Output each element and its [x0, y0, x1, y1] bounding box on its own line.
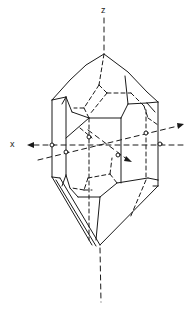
prism-edges — [52, 97, 158, 183]
lower-pyramid — [52, 175, 158, 246]
z-axis — [100, 18, 104, 302]
crystal-diagram — [0, 0, 191, 312]
y-arrow-icon — [177, 123, 184, 129]
z-axis-label: z — [101, 5, 106, 15]
diag-arrow-icon — [124, 156, 132, 162]
prism-hidden — [80, 110, 146, 240]
x-axis-label: x — [10, 139, 15, 149]
upper-pyramid — [52, 54, 158, 118]
x-arrow-icon — [27, 142, 34, 148]
